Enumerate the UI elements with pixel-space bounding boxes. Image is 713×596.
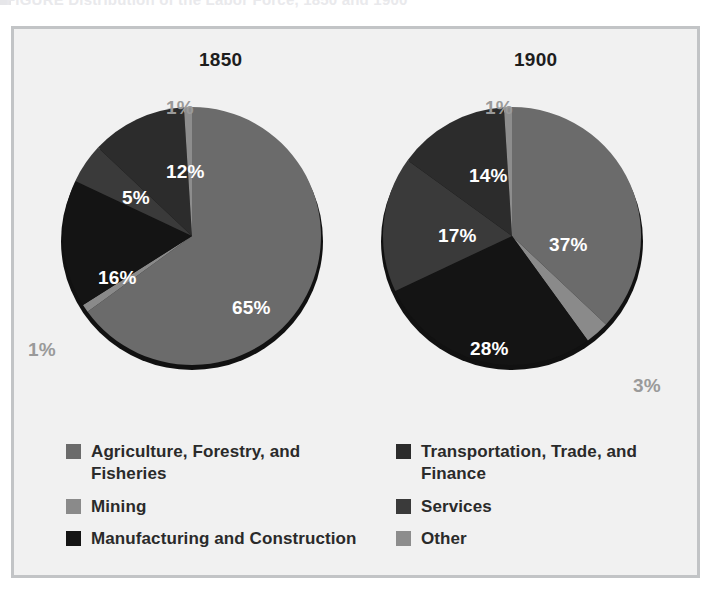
legend-label-manufacturing: Manufacturing and Construction: [91, 528, 357, 550]
chart-title-1850: 1850: [199, 49, 242, 71]
legend-item-transportation[interactable]: Transportation, Trade, and Finance: [396, 441, 696, 485]
legend-item-agriculture[interactable]: Agriculture, Forestry, and Fisheries: [66, 441, 366, 485]
legend-label-other: Other: [421, 528, 467, 550]
pie-1850-svg: [52, 91, 332, 381]
legend-swatch-other-icon: [396, 531, 411, 546]
legend-label-agriculture: Agriculture, Forestry, and Fisheries: [91, 441, 366, 485]
cropped-caption-strip: FIGURE Distribution of the Labor Force, …: [0, 0, 713, 20]
cropped-caption-text: FIGURE Distribution of the Labor Force, …: [6, 0, 408, 8]
legend-item-mining[interactable]: Mining: [66, 496, 366, 518]
legend-swatch-mining-icon: [66, 499, 81, 514]
pie-1900-label-services: 17%: [438, 225, 477, 247]
pie-1850-label-services: 5%: [122, 187, 150, 209]
pie-1900-svg: [372, 91, 652, 381]
pie-1900-label-manufacturing: 28%: [470, 338, 509, 360]
legend-swatch-manufacturing-icon: [66, 531, 81, 546]
chart-title-1900: 1900: [514, 49, 557, 71]
legend-swatch-transportation-icon: [396, 444, 411, 459]
legend-item-manufacturing[interactable]: Manufacturing and Construction: [66, 528, 366, 550]
pie-1900-label-mining: 3%: [633, 375, 661, 397]
figure-panel: 1850 1900 1% 12% 5% 16% 65% 1%: [11, 26, 700, 578]
legend-label-services: Services: [421, 496, 492, 518]
pie-1900-label-transportation: 14%: [469, 165, 508, 187]
legend-label-transportation: Transportation, Trade, and Finance: [421, 441, 696, 485]
pie-1850-label-manufacturing: 16%: [98, 267, 137, 289]
pie-chart-1850: [52, 91, 332, 381]
legend-swatch-services-icon: [396, 499, 411, 514]
pie-1850-label-agriculture: 65%: [232, 297, 271, 319]
legend-item-other[interactable]: Other: [396, 528, 696, 550]
pie-chart-1900: [372, 91, 652, 381]
pie-1850-label-other: 1%: [166, 97, 194, 119]
legend-right-column: Transportation, Trade, and Finance Servi…: [396, 441, 696, 561]
legend-left-column: Agriculture, Forestry, and Fisheries Min…: [66, 441, 366, 561]
legend-label-mining: Mining: [91, 496, 146, 518]
pie-1900-label-agriculture: 37%: [549, 234, 588, 256]
legend-item-services[interactable]: Services: [396, 496, 696, 518]
legend-swatch-agriculture-icon: [66, 444, 81, 459]
pie-1850-label-transportation: 12%: [166, 161, 205, 183]
pie-1900-label-other: 1%: [485, 97, 513, 119]
pie-1850-label-mining: 1%: [28, 339, 56, 361]
